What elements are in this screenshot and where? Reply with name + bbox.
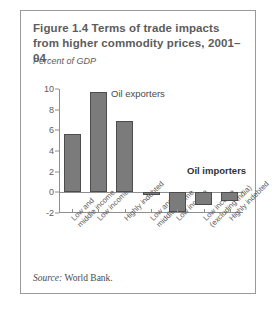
y-axis-title: Percent of GDP: [33, 56, 96, 66]
y-axis-tick-mark: [55, 213, 59, 214]
chart-bar: [221, 192, 238, 201]
y-axis-tick-label: 8: [49, 105, 54, 115]
source-label: Source:: [33, 273, 62, 283]
chart-bar: [64, 134, 81, 192]
chart-bar: [143, 192, 160, 195]
y-axis-tick-label: 10: [44, 84, 54, 94]
y-axis-tick-mark: [55, 109, 59, 110]
chart-annotation: Oil importers: [187, 165, 246, 176]
y-axis-tick-label: -2: [46, 208, 54, 218]
chart-bar: [195, 192, 212, 204]
y-axis-tick-label: 6: [49, 125, 54, 135]
source-value: World Bank.: [64, 273, 112, 283]
y-axis-tick-mark: [55, 130, 59, 131]
y-axis-tick-mark: [55, 89, 59, 90]
y-axis-tick-mark: [55, 192, 59, 193]
source-note: Source: World Bank.: [33, 273, 113, 283]
chart-annotation: Oil exporters: [111, 88, 165, 99]
y-axis-line: [59, 89, 60, 213]
y-axis-tick-label: 4: [49, 146, 54, 156]
y-axis-tick-label: 0: [49, 187, 54, 197]
figure-card: Figure 1.4 Terms of trade impacts from h…: [20, 10, 256, 294]
y-axis-tick-mark: [55, 151, 59, 152]
y-axis-tick-mark: [55, 171, 59, 172]
chart-bar: [90, 92, 107, 192]
y-axis-tick-label: 2: [49, 167, 54, 177]
chart-plot-area: 1086420-2Low and middle incomeLow income…: [59, 89, 243, 213]
chart-bar: [116, 121, 133, 192]
